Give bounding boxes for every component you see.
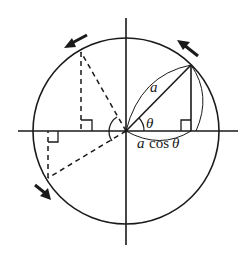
angle-label: θ (146, 115, 154, 131)
angle-theta-arc (139, 118, 144, 131)
circle-projection-diagram: a θ a cos θ (0, 0, 247, 257)
top-left-arrow-icon (64, 35, 87, 48)
dashed-radius-lower-left (48, 131, 126, 178)
right-angle-marker-lower-left (48, 131, 58, 142)
origin-point (124, 129, 127, 132)
top-right-arrow-icon (177, 40, 198, 56)
bottom-left-arrow-icon (35, 185, 51, 200)
dashed-radius-upper-left (81, 52, 126, 131)
projection-label-func: cos (149, 135, 169, 151)
projection-label-var: a (137, 135, 145, 151)
projection-label-angle: θ (172, 135, 180, 151)
right-angle-marker (181, 120, 191, 131)
radius-label: a (150, 79, 158, 95)
right-angle-marker-upper-left (81, 120, 92, 131)
